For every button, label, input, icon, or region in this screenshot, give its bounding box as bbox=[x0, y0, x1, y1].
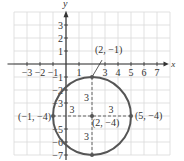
point-marker bbox=[90, 75, 94, 79]
y-tick-label: −1 bbox=[52, 72, 63, 83]
y-tick-label: −7 bbox=[52, 150, 63, 161]
radius-label: 3 bbox=[84, 131, 89, 142]
x-tick-label: 5 bbox=[129, 67, 134, 78]
label-leader-line bbox=[92, 60, 102, 77]
point-marker bbox=[51, 114, 55, 118]
axes: xy bbox=[8, 0, 176, 160]
radius-label: 3 bbox=[109, 104, 114, 115]
x-tick-label: 3 bbox=[103, 67, 108, 78]
x-tick-label: 6 bbox=[142, 67, 147, 78]
y-tick-label: 2 bbox=[58, 33, 63, 44]
x-tick-label: 7 bbox=[155, 67, 160, 78]
point-label: (−1, −4) bbox=[18, 111, 51, 123]
x-tick-label: 1 bbox=[77, 67, 82, 78]
radius-label: 3 bbox=[70, 104, 75, 115]
x-tick-label: −2 bbox=[35, 67, 46, 78]
y-tick-label: −2 bbox=[52, 85, 63, 96]
x-tick-label: 4 bbox=[116, 67, 121, 78]
y-axis-label: y bbox=[62, 0, 68, 9]
x-axis-arrow-icon bbox=[164, 62, 169, 67]
y-tick-label: −6 bbox=[52, 137, 63, 148]
x-tick-label: −3 bbox=[22, 67, 33, 78]
y-tick-label: 1 bbox=[58, 46, 63, 57]
circle-graph: xy −3−2−1134567321−1−2−3−5−6−7 3333(2, −… bbox=[0, 0, 184, 160]
point-label: (2, −1) bbox=[95, 44, 122, 56]
point-marker bbox=[129, 114, 133, 118]
x-axis-label: x bbox=[170, 59, 175, 69]
radius-label: 3 bbox=[84, 92, 89, 103]
point-marker bbox=[90, 153, 94, 157]
point-label: (2, −4) bbox=[92, 117, 119, 129]
y-tick-label: 3 bbox=[58, 20, 63, 31]
point-label: (5, −4) bbox=[135, 110, 162, 122]
